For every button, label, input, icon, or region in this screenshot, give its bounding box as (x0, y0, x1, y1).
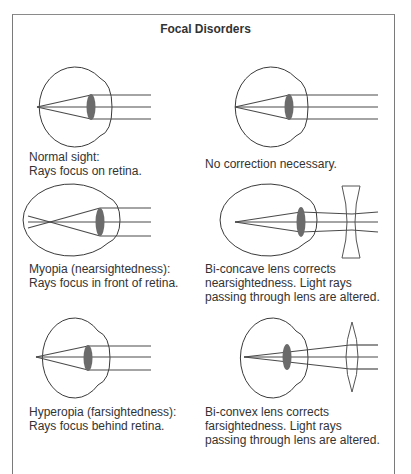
correction-normal: No correction necessary. (205, 157, 337, 171)
eye-hyperopia (36, 318, 151, 398)
correction-hyperopia: Bi-convex lens corrects farsightedness. … (205, 405, 380, 447)
caption-myopia: Myopia (nearsightedness): Rays focus in … (29, 262, 178, 290)
correction-line: nearsightedness. Light rays (205, 276, 380, 290)
caption-normal: Normal sight: Rays focus on retina. (29, 150, 142, 178)
caption-line: Myopia (nearsightedness): (29, 262, 178, 276)
eye-myopia-corrected (220, 184, 378, 258)
correction-line: Bi-concave lens corrects (205, 262, 380, 276)
caption-line: Normal sight: (29, 150, 142, 164)
caption-hyperopia: Hyperopia (farsightedness): Rays focus b… (29, 405, 176, 433)
correction-line: Bi-convex lens corrects (205, 405, 380, 419)
eye-normal-no-correction (235, 67, 378, 147)
eye-hyperopia-corrected (240, 318, 378, 398)
caption-line: Rays focus in front of retina. (29, 276, 178, 290)
caption-line: Rays focus behind retina. (29, 419, 176, 433)
correction-line: passing through lens are altered. (205, 433, 380, 447)
eye-myopia (23, 184, 151, 256)
correction-myopia: Bi-concave lens corrects nearsightedness… (205, 262, 380, 304)
correction-line: passing through lens are altered. (205, 290, 380, 304)
caption-line: Hyperopia (farsightedness): (29, 405, 176, 419)
caption-line: Rays focus on retina. (29, 164, 142, 178)
correction-line: farsightedness. Light rays (205, 419, 380, 433)
eye-normal (37, 67, 151, 147)
lens-icon (87, 94, 96, 120)
correction-line: No correction necessary. (205, 157, 337, 171)
